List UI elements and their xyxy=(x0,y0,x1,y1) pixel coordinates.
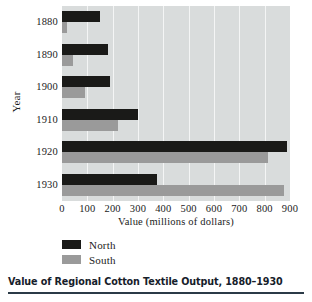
y-axis-tick-labels: 188018901900191019201930 xyxy=(22,6,58,201)
gridline xyxy=(163,6,164,201)
figure: Year 188018901900191019201930 0100200300… xyxy=(0,0,312,302)
gridline xyxy=(87,6,88,201)
caption-title: Value of Regional Cotton Textile Output,… xyxy=(8,276,304,287)
bar-south-1910 xyxy=(62,120,118,131)
bar-south-1900 xyxy=(62,87,85,98)
legend-item-north: North xyxy=(62,237,242,252)
gridline xyxy=(265,6,266,201)
bar-chart: Year 188018901900191019201930 0100200300… xyxy=(0,0,312,232)
caption-divider xyxy=(8,292,304,294)
y-tick-1910: 1910 xyxy=(22,114,58,125)
y-axis-title: Year xyxy=(10,72,22,132)
bar-north-1920 xyxy=(62,141,287,152)
legend-label-north: North xyxy=(89,239,116,251)
gridline xyxy=(113,6,114,201)
legend-swatch-south-icon xyxy=(62,255,81,264)
legend: North South xyxy=(62,237,242,267)
bar-south-1890 xyxy=(62,55,73,66)
x-axis-tick-labels: 0100200300400500600700800900 xyxy=(62,203,290,217)
caption-block: Value of Regional Cotton Textile Output,… xyxy=(8,276,304,294)
gridline xyxy=(239,6,240,201)
x-tick-900: 900 xyxy=(270,203,310,214)
legend-item-south: South xyxy=(62,252,242,267)
bar-north-1930 xyxy=(62,174,157,185)
bar-north-1890 xyxy=(62,44,108,55)
y-tick-1920: 1920 xyxy=(22,146,58,157)
bar-north-1910 xyxy=(62,109,138,120)
bar-north-1880 xyxy=(62,11,100,22)
y-tick-1880: 1880 xyxy=(22,16,58,27)
gridline xyxy=(138,6,139,201)
bar-north-1900 xyxy=(62,76,110,87)
legend-label-south: South xyxy=(89,254,116,266)
y-tick-1890: 1890 xyxy=(22,49,58,60)
legend-swatch-north-icon xyxy=(62,240,81,249)
plot-area xyxy=(62,6,290,201)
bar-south-1920 xyxy=(62,152,268,163)
bar-south-1930 xyxy=(62,185,284,196)
y-tick-1930: 1930 xyxy=(22,179,58,190)
gridline xyxy=(214,6,215,201)
bar-south-1880 xyxy=(62,22,67,33)
x-axis-title: Value (millions of dollars) xyxy=(62,216,290,227)
y-tick-1900: 1900 xyxy=(22,81,58,92)
gridline xyxy=(189,6,190,201)
